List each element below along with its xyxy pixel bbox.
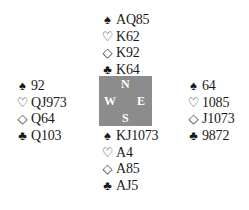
diamond-icon: ◇ (16, 111, 29, 128)
south-hand: ♠ KJ1073 ♡ A4 ◇ A85 ♣ AJ5 (101, 128, 158, 194)
west-diamonds: ◇ Q64 (16, 111, 67, 128)
spade-icon: ♠ (101, 128, 114, 145)
north-spades-cards: AQ85 (116, 12, 149, 29)
east-hearts-cards: 1085 (202, 95, 229, 112)
east-diamonds-cards: J1073 (202, 111, 234, 128)
east-hand: ♠ 64 ♡ 1085 ◇ J1073 ♣ 9872 (187, 78, 234, 144)
south-diamonds: ◇ A85 (101, 161, 158, 178)
compass-table: N W E S (99, 76, 152, 126)
spade-icon: ♠ (101, 12, 114, 29)
east-clubs-cards: 9872 (202, 128, 229, 145)
spade-icon: ♠ (16, 78, 29, 95)
west-spades: ♠ 92 (16, 78, 67, 95)
club-icon: ♣ (101, 178, 114, 195)
south-spades-cards: KJ1073 (116, 128, 158, 145)
north-diamonds-cards: K92 (116, 45, 140, 62)
south-hearts: ♡ A4 (101, 145, 158, 162)
compass-north-label: N (121, 78, 130, 90)
west-hearts-cards: QJ973 (31, 95, 67, 112)
east-spades-cards: 64 (202, 78, 216, 95)
north-spades: ♠ AQ85 (101, 12, 149, 29)
east-clubs: ♣ 9872 (187, 128, 234, 145)
heart-icon: ♡ (101, 145, 114, 162)
north-diamonds: ◇ K92 (101, 45, 149, 62)
club-icon: ♣ (187, 128, 200, 145)
heart-icon: ♡ (16, 95, 29, 112)
north-hearts-cards: K62 (116, 29, 140, 46)
south-diamonds-cards: A85 (116, 161, 140, 178)
diamond-icon: ◇ (187, 111, 200, 128)
east-diamonds: ◇ J1073 (187, 111, 234, 128)
heart-icon: ♡ (187, 95, 200, 112)
west-clubs-cards: Q103 (31, 128, 61, 145)
west-hearts: ♡ QJ973 (16, 95, 67, 112)
compass-south-label: S (122, 112, 129, 124)
compass-east-label: E (137, 95, 145, 107)
diamond-icon: ◇ (101, 161, 114, 178)
south-clubs: ♣ AJ5 (101, 178, 158, 195)
north-hand: ♠ AQ85 ♡ K62 ◇ K92 ♣ K64 (101, 12, 149, 78)
east-hearts: ♡ 1085 (187, 95, 234, 112)
club-icon: ♣ (16, 128, 29, 145)
south-spades: ♠ KJ1073 (101, 128, 158, 145)
spade-icon: ♠ (187, 78, 200, 95)
diamond-icon: ◇ (101, 45, 114, 62)
west-hand: ♠ 92 ♡ QJ973 ◇ Q64 ♣ Q103 (16, 78, 67, 144)
south-clubs-cards: AJ5 (116, 178, 138, 195)
heart-icon: ♡ (101, 29, 114, 46)
compass-west-label: W (104, 95, 116, 107)
west-clubs: ♣ Q103 (16, 128, 67, 145)
west-spades-cards: 92 (31, 78, 45, 95)
west-diamonds-cards: Q64 (31, 111, 55, 128)
north-hearts: ♡ K62 (101, 29, 149, 46)
east-spades: ♠ 64 (187, 78, 234, 95)
south-hearts-cards: A4 (116, 145, 133, 162)
